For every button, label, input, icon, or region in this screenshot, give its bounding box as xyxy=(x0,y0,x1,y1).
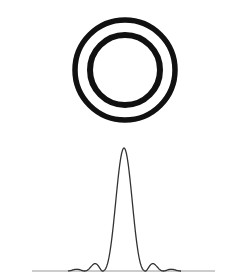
inner-ring xyxy=(90,35,160,105)
intensity-curve xyxy=(68,148,181,271)
airy-rings xyxy=(75,20,175,120)
airy-pattern-diagram xyxy=(0,0,226,280)
intensity-profile xyxy=(32,148,215,271)
